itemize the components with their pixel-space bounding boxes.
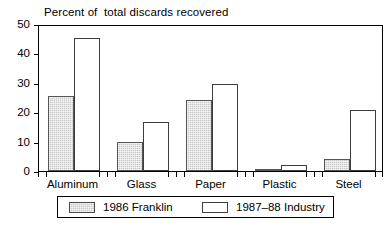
bar	[350, 110, 376, 171]
bar-chart: Percent of total discards recovered 0102…	[0, 0, 385, 228]
x-axis-tick-mark	[237, 172, 238, 177]
y-axis-tick-label: 20	[17, 107, 30, 119]
x-axis-tick-mark	[99, 172, 100, 177]
x-axis-category-label: Paper	[195, 178, 226, 191]
bar	[281, 165, 307, 171]
bar	[117, 142, 143, 171]
y-axis: 01020304050	[0, 25, 38, 172]
chart-legend: 1986 Franklin 1987–88 Industry	[57, 196, 334, 218]
x-axis-tick-mark	[245, 172, 246, 177]
x-axis-category-label: Aluminum	[47, 178, 98, 191]
x-axis-tick-mark	[176, 172, 177, 177]
x-axis-tick-mark	[38, 172, 39, 177]
bar	[255, 169, 281, 171]
bar	[212, 84, 238, 171]
x-axis-tick-mark	[107, 172, 108, 177]
legend-swatch-icon	[202, 202, 228, 213]
bar	[74, 38, 100, 171]
bar	[48, 96, 74, 171]
x-axis-tick-mark	[253, 172, 254, 177]
x-axis-category-label: Glass	[127, 178, 156, 191]
legend-label: 1987–88 Industry	[236, 201, 325, 213]
x-axis-tick-mark	[306, 172, 307, 177]
x-axis-tick-mark	[382, 172, 383, 177]
x-axis: AluminumGlassPaperPlasticSteel	[38, 172, 383, 194]
x-axis-tick-mark	[168, 172, 169, 177]
plot-area	[38, 25, 383, 172]
chart-title: Percent of total discards recovered	[44, 6, 229, 18]
legend-swatch-icon	[69, 202, 95, 213]
x-axis-category-label: Steel	[335, 178, 361, 191]
x-axis-category-label: Plastic	[263, 178, 297, 191]
bar	[324, 159, 350, 171]
legend-item-1986-franklin: 1986 Franklin	[69, 201, 173, 213]
y-axis-tick-label: 30	[17, 78, 30, 90]
x-axis-tick-mark	[314, 172, 315, 177]
x-axis-tick-mark	[46, 172, 47, 177]
legend-label: 1986 Franklin	[103, 201, 173, 213]
x-axis-tick-mark	[184, 172, 185, 177]
bar	[186, 100, 212, 171]
y-axis-tick-label: 50	[17, 19, 30, 31]
bar	[143, 122, 169, 171]
y-axis-tick-label: 10	[17, 137, 30, 149]
y-axis-tick-label: 0	[24, 166, 30, 178]
y-axis-tick-label: 40	[17, 49, 30, 61]
legend-item-1987-88-industry: 1987–88 Industry	[202, 201, 325, 213]
x-axis-tick-mark	[375, 172, 376, 177]
x-axis-tick-mark	[115, 172, 116, 177]
x-axis-tick-mark	[322, 172, 323, 177]
plot-inner	[39, 26, 382, 171]
